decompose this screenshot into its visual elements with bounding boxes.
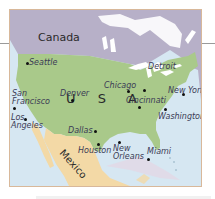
label-new-york: New York	[168, 87, 202, 95]
city-dot-houston[interactable]	[97, 143, 100, 146]
city-dot-washington[interactable]	[164, 108, 167, 111]
label-los-angeles-line2: Angeles	[11, 122, 43, 130]
label-dallas: Dallas	[68, 127, 93, 135]
label-washington: Washington	[158, 113, 202, 121]
divider-right	[202, 43, 215, 44]
city-dot-los-angeles[interactable]	[24, 118, 27, 121]
label-seattle: Seattle	[29, 59, 57, 67]
label-san-francisco-line2: Francisco	[12, 98, 50, 106]
city-dot-san-francisco[interactable]	[13, 107, 16, 110]
city-dot-detroit[interactable]	[143, 89, 146, 92]
city-dot-cincinnati[interactable]	[138, 106, 141, 109]
city-dot-dallas[interactable]	[94, 130, 97, 133]
label-detroit: Detroit	[148, 63, 176, 71]
label-houston: Houston	[78, 147, 111, 155]
city-dot-chicago[interactable]	[127, 90, 130, 93]
city-dot-miami[interactable]	[147, 158, 150, 161]
label-denver: Denver	[60, 90, 89, 98]
map-frame: Canada U S A Mexico Seattle San Francisc…	[9, 9, 202, 187]
label-new-orleans-line2: Orleans	[113, 153, 144, 161]
label-miami: Miami	[147, 148, 171, 156]
label-chicago: Chicago	[104, 82, 136, 90]
city-dot-denver[interactable]	[71, 99, 74, 102]
city-dot-new-orleans[interactable]	[118, 141, 121, 144]
label-canada: Canada	[38, 32, 80, 43]
label-cincinnati: Cincinnati	[126, 97, 166, 105]
city-dot-new-york[interactable]	[182, 93, 185, 96]
page-strip	[36, 196, 211, 199]
